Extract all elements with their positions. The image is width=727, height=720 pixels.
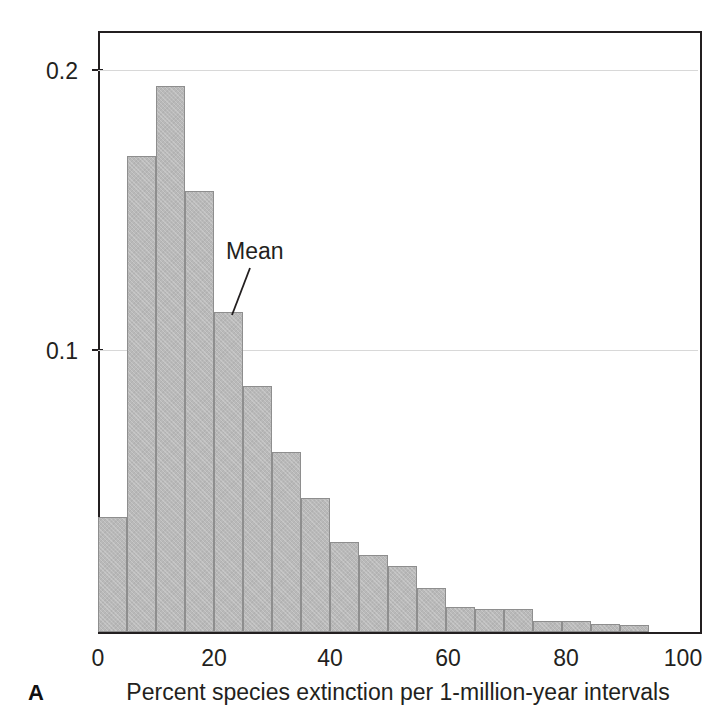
bar-25-30 — [243, 386, 272, 632]
bar-45-50 — [359, 555, 388, 632]
x-tick-label-100: 100 — [653, 645, 713, 672]
bar-60-65 — [446, 607, 475, 632]
gridline-0-2 — [98, 70, 698, 71]
bar-15-20 — [185, 191, 214, 632]
bar-5-10 — [127, 156, 156, 632]
bar-30-35 — [272, 452, 301, 632]
bar-35-40 — [301, 498, 330, 632]
x-tick-label-80: 80 — [536, 645, 596, 672]
figure-panel-a: Frequency 0.2 0.1 Mean 0 20 — [0, 0, 727, 720]
x-axis-title: Percent species extinction per 1-million… — [98, 679, 698, 706]
mean-annotation-label: Mean — [226, 238, 284, 265]
bar-20-25 — [214, 312, 243, 632]
x-axis-line — [98, 632, 700, 634]
bar-10-15 — [156, 86, 185, 632]
bar-55-60 — [417, 588, 446, 632]
x-tick-label-60: 60 — [418, 645, 478, 672]
y-tick-label-0-2: 0.2 — [18, 58, 78, 85]
x-tick-label-20: 20 — [184, 645, 244, 672]
x-tick-label-40: 40 — [300, 645, 360, 672]
bar-70-75 — [504, 609, 533, 632]
panel-label: A — [28, 680, 44, 706]
bar-75-80 — [533, 621, 562, 632]
bar-50-55 — [388, 566, 417, 632]
bar-0-5 — [98, 517, 127, 632]
bar-85-90 — [591, 624, 620, 632]
bar-40-45 — [330, 542, 359, 632]
x-tick-label-0: 0 — [68, 645, 128, 672]
plot-area — [98, 31, 698, 632]
bar-80-85 — [562, 621, 591, 632]
y-tick-label-0-1: 0.1 — [18, 338, 78, 365]
bar-65-70 — [475, 609, 504, 632]
bar-90-95 — [620, 625, 649, 632]
